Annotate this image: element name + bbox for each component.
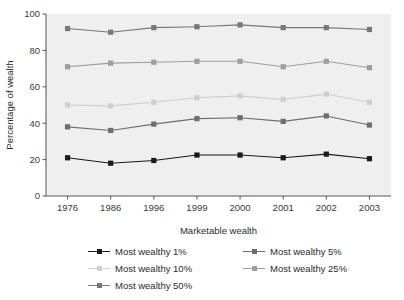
data-point-marker [281,25,286,30]
data-point-marker [194,24,199,29]
legend-item[interactable]: Most wealthy 1% [88,243,238,260]
x-tick-label: 2000 [229,202,250,213]
plot-background-rect [46,14,391,196]
legend-label: Most wealthy 1% [115,246,187,257]
x-axis-title: Marketable wealth [180,225,257,236]
data-point-marker [108,103,113,108]
legend-swatch-icon [88,281,110,291]
y-axis-ticks: 020406080100 [24,8,46,201]
data-point-marker [151,60,156,65]
legend-marker-square-icon [97,249,102,254]
data-point-marker [65,124,70,129]
legend-item[interactable]: Most wealthy 50% [88,277,238,294]
data-point-marker [324,25,329,30]
data-point-marker [108,128,113,133]
data-point-marker [194,95,199,100]
data-point-marker [281,97,286,102]
legend-swatch-icon [243,264,265,274]
data-point-marker [108,161,113,166]
x-tick-label: 2002 [316,202,337,213]
legend-label: Most wealthy 25% [270,263,347,274]
legend-marker-square-icon [252,249,257,254]
data-point-marker [151,158,156,163]
y-tick-label: 100 [24,8,40,19]
data-point-marker [367,65,372,70]
legend-marker-square-icon [97,266,102,271]
legend-swatch-icon [88,247,110,257]
y-tick-label: 80 [29,45,40,56]
chart-legend: Most wealthy 1%Most wealthy 10%Most weal… [0,243,404,300]
data-point-marker [237,152,242,157]
legend-swatch-icon [243,247,265,257]
data-point-marker [324,152,329,157]
data-point-marker [65,155,70,160]
x-tick-label: 1996 [143,202,164,213]
data-point-marker [324,59,329,64]
data-point-marker [324,91,329,96]
data-point-marker [108,61,113,66]
data-point-marker [324,113,329,118]
legend-column-right: Most wealthy 5%Most wealthy 25% [243,243,398,277]
data-point-marker [237,93,242,98]
legend-label: Most wealthy 10% [115,263,192,274]
data-point-marker [65,64,70,69]
data-point-marker [237,22,242,27]
legend-marker-square-icon [97,283,102,288]
y-axis-title: Percentage of wealth [4,60,15,149]
x-tick-label: 1976 [57,202,78,213]
data-point-marker [281,64,286,69]
line-chart-svg: 020406080100 197619861996199920002001200… [0,0,404,240]
y-tick-label: 40 [29,118,40,129]
y-tick-label: 60 [29,81,40,92]
data-point-marker [194,59,199,64]
chart-container: 020406080100 197619861996199920002001200… [0,0,404,300]
plot-area-wrapper: 020406080100 197619861996199920002001200… [0,0,404,240]
data-point-marker [367,122,372,127]
legend-label: Most wealthy 50% [115,280,192,291]
legend-item[interactable]: Most wealthy 5% [243,243,398,260]
data-point-marker [194,116,199,121]
data-point-marker [194,152,199,157]
data-point-marker [367,27,372,32]
x-tick-label: 1986 [100,202,121,213]
data-point-marker [65,102,70,107]
y-tick-label: 20 [29,154,40,165]
y-tick-label: 0 [35,190,40,201]
legend-label: Most wealthy 5% [270,246,342,257]
data-point-marker [281,119,286,124]
legend-item[interactable]: Most wealthy 10% [88,260,238,277]
data-point-marker [65,26,70,31]
data-point-marker [151,100,156,105]
x-axis-ticks: 19761986199619992000200120022003 [57,196,380,213]
x-tick-label: 2003 [359,202,380,213]
legend-item[interactable]: Most wealthy 25% [243,260,398,277]
plot-background [46,14,391,196]
data-point-marker [151,122,156,127]
data-point-marker [151,25,156,30]
legend-column-left: Most wealthy 1%Most wealthy 10%Most weal… [88,243,238,294]
x-tick-label: 1999 [186,202,207,213]
legend-marker-square-icon [252,266,257,271]
x-tick-label: 2001 [273,202,294,213]
data-point-marker [367,100,372,105]
data-point-marker [108,30,113,35]
data-point-marker [237,115,242,120]
data-point-marker [367,156,372,161]
legend-swatch-icon [88,264,110,274]
data-point-marker [237,59,242,64]
data-point-marker [281,155,286,160]
